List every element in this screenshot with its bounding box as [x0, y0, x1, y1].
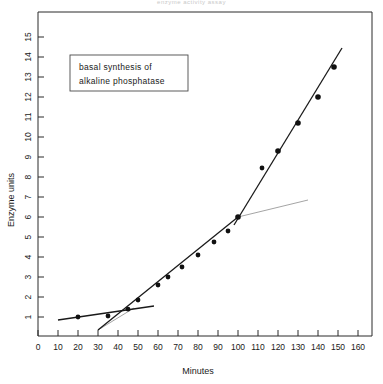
- data-point: [76, 315, 81, 320]
- x-axis-tick-labels: 0 10 20 30 40 50 60 70 80 90 100 110 120…: [36, 342, 366, 352]
- y-tick-label: 6: [23, 214, 33, 219]
- annotation-line-1: basal synthesis of: [79, 62, 152, 72]
- baseline-extension-guide: [238, 200, 308, 217]
- x-tick-label: 120: [271, 342, 285, 352]
- y-tick-label: 2: [23, 294, 33, 299]
- y-tick-label: 13: [23, 72, 33, 82]
- x-tick-label: 130: [291, 342, 305, 352]
- chart-figure: enzyme activity assay 1 2: [0, 0, 383, 384]
- data-point: [156, 283, 161, 288]
- y-tick-label: 12: [23, 92, 33, 102]
- y-tick-label: 10: [23, 132, 33, 142]
- data-point: [260, 166, 265, 171]
- x-tick-label: 20: [73, 342, 83, 352]
- data-point: [166, 275, 171, 280]
- data-point: [106, 314, 111, 319]
- data-point: [295, 120, 301, 126]
- data-point: [315, 94, 321, 100]
- data-point: [136, 298, 141, 303]
- x-tick-label: 50: [133, 342, 143, 352]
- data-point: [212, 240, 217, 245]
- y-tick-label: 14: [23, 52, 33, 62]
- y-tick-label: 7: [23, 194, 33, 199]
- x-tick-label: 30: [93, 342, 103, 352]
- y-axis-ticks: [38, 37, 44, 317]
- data-point: [275, 148, 281, 154]
- y-axis-tick-labels: 1 2 3 4 5 6 7 8 9 10 11 12 13 14 15: [23, 32, 33, 319]
- y-tick-label: 3: [23, 274, 33, 279]
- y-tick-label: 15: [23, 32, 33, 42]
- data-point: [331, 64, 337, 70]
- steep-slope-fit-segment: [234, 48, 342, 225]
- x-tick-label: 40: [113, 342, 123, 352]
- data-markers: [76, 64, 337, 319]
- faint-header-text: enzyme activity assay: [0, 0, 383, 5]
- x-tick-label: 140: [311, 342, 325, 352]
- x-axis-ticks: [38, 330, 358, 336]
- chart-canvas: 1 2 3 4 5 6 7 8 9 10 11 12 13 14 15 Enzy…: [0, 0, 383, 384]
- y-tick-label: 8: [23, 174, 33, 179]
- x-axis-title: Minutes: [182, 366, 214, 376]
- annotation-box: basal synthesis of alkaline phosphatase: [70, 55, 188, 91]
- y-tick-label: 1: [23, 314, 33, 319]
- data-point: [226, 229, 231, 234]
- y-tick-label: 5: [23, 234, 33, 239]
- data-point: [196, 253, 201, 258]
- x-tick-label: 150: [331, 342, 345, 352]
- y-axis-title: Enzyme units: [6, 172, 16, 227]
- y-tick-label: 11: [23, 112, 33, 121]
- data-point: [126, 307, 131, 312]
- baseline-fit-segment: [58, 306, 154, 320]
- y-tick-label: 9: [23, 154, 33, 159]
- middle-slope-fit-segment: [98, 217, 238, 330]
- x-tick-label: 90: [213, 342, 223, 352]
- x-tick-label: 60: [153, 342, 163, 352]
- y-tick-label: 4: [23, 254, 33, 259]
- x-tick-label: 70: [173, 342, 183, 352]
- x-tick-label: 80: [193, 342, 203, 352]
- x-tick-label: 110: [251, 342, 265, 352]
- annotation-line-2: alkaline phosphatase: [79, 76, 165, 86]
- x-tick-label: 100: [231, 342, 245, 352]
- data-point: [180, 265, 185, 270]
- x-tick-label: 160: [351, 342, 365, 352]
- x-tick-label: 0: [36, 342, 41, 352]
- x-tick-label: 10: [53, 342, 63, 352]
- data-point: [235, 214, 241, 220]
